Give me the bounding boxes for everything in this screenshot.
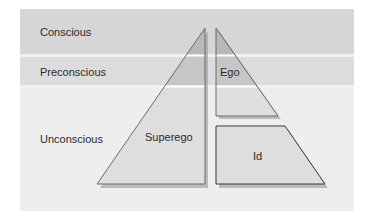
ego-label: Ego [220,66,240,78]
id-label: Id [253,150,262,162]
psyche-diagram [0,0,365,216]
superego-shape [90,28,210,185]
superego-label: Superego [145,131,193,143]
id-shape [216,126,325,184]
